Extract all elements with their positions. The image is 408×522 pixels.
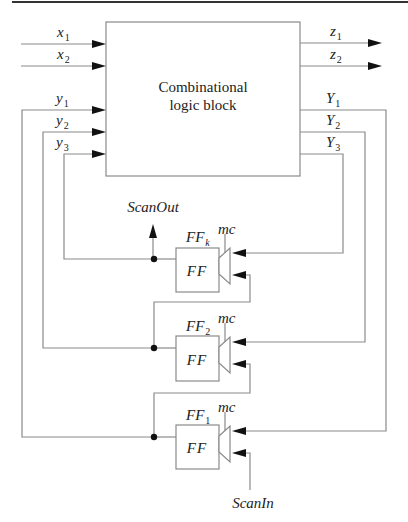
label-y3: y3 [54,134,69,153]
label-z2: z2 [329,46,342,65]
label-y1: y1 [54,90,69,109]
input-x1: x1 [21,24,106,48]
arrow-head-icon [232,360,246,368]
block-label-line2: logic block [169,97,237,113]
arrow-head-icon [92,128,106,136]
junction-dot [151,345,157,351]
scan-chain-diagram: Combinational logic block x1 x2 z1 z2 y1… [0,0,408,522]
mux-control-label: mc [218,221,236,237]
arrow-head-icon [232,427,246,435]
ff-body-label: FF [186,352,207,368]
ff-body-label: FF [186,263,207,279]
scan-in: ScanIn [232,449,274,511]
mux-icon [219,248,230,284]
arrow-head-icon [92,40,106,48]
label-Y1: Y1 [326,90,340,109]
arrow-head-icon [92,106,106,114]
arrow-head-icon [92,62,106,70]
mux-control-label: mc [218,310,236,326]
label-x2: x2 [56,46,70,65]
label-Y3: Y3 [326,134,340,153]
arrow-head-icon [232,271,246,279]
ff-name-label: FFk [185,229,210,248]
label-x1: x1 [56,24,70,43]
arrow-head-icon [368,39,382,47]
mux-control-label: mc [218,399,236,415]
ff-body-label: FF [186,440,207,456]
arrow-head-icon [92,150,106,158]
junction-dot [151,256,157,262]
mux-icon [219,337,230,373]
mux-icon [219,426,230,462]
output-z2: z2 [300,46,382,70]
output-z1: z1 [300,23,382,47]
block-label-line1: Combinational [158,79,247,95]
label-z1: z1 [329,23,342,42]
arrow-up-icon [149,224,157,238]
ff-name-label: FF2 [185,318,210,337]
flipflop-1: FF mc FF1 [151,399,236,469]
arrow-head-icon [232,249,246,257]
scan-out: ScanOut [127,199,179,259]
arrow-head-icon [232,338,246,346]
label-Y2: Y2 [326,112,340,131]
arrow-head-icon [232,449,246,457]
input-x2: x2 [21,46,106,70]
junction-dot [151,434,157,440]
ff-name-label: FF1 [185,407,210,426]
arrow-head-icon [368,62,382,70]
label-scan-out: ScanOut [127,199,179,215]
label-scan-in: ScanIn [232,495,274,511]
label-y2: y2 [54,112,69,131]
